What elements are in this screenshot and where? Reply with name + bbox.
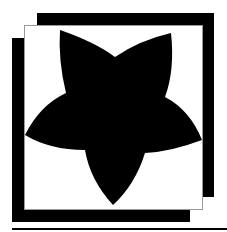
bottom-rule	[12, 228, 227, 230]
star-framed-icon	[0, 0, 227, 232]
